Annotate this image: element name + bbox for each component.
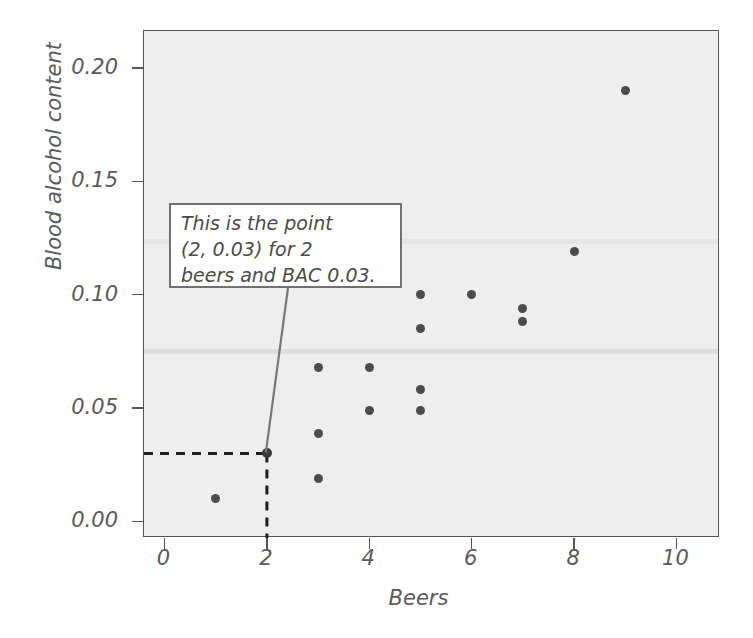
annotation-leader-line <box>0 0 753 638</box>
chart-canvas: Blood alcohol content Beers 0246810 0.00… <box>0 0 753 638</box>
leader-line <box>266 288 288 452</box>
